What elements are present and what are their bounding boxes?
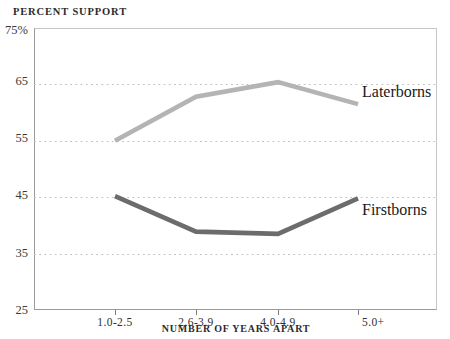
y-tick-label-25: 25 (16, 304, 29, 317)
series-lines (34, 28, 437, 310)
chart-container: PERCENT SUPPORT 75% 65 55 45 35 25 1.0-2… (0, 0, 450, 339)
y-tick-label-65: 65 (16, 75, 29, 88)
x-tick-mark-2 (196, 310, 197, 315)
y-tick-label-55: 55 (16, 132, 29, 145)
series-line-laterborns (115, 82, 358, 141)
y-tick-label-35: 35 (16, 247, 29, 260)
series-label-firstborns: Firstborns (362, 201, 427, 219)
y-tick-label-45: 45 (16, 189, 29, 202)
x-tick-mark-3 (278, 310, 279, 315)
series-label-laterborns: Laterborns (362, 83, 431, 101)
plot-area (34, 28, 437, 310)
x-tick-mark-1 (115, 310, 116, 315)
series-line-firstborns (115, 196, 358, 234)
x-axis-title: NUMBER OF YEARS APART (34, 323, 438, 334)
chart-title: PERCENT SUPPORT (13, 6, 127, 17)
y-tick-label-75: 75% (5, 24, 28, 37)
x-tick-mark-4 (358, 310, 359, 315)
